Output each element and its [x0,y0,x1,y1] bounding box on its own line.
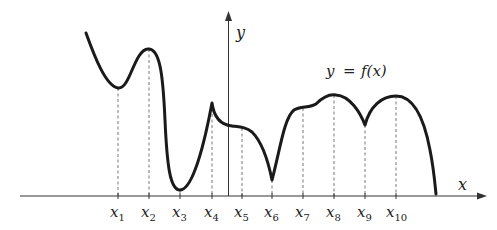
label-x1: x1 [110,203,125,223]
label-x4: x4 [204,203,219,223]
label-x3: x3 [172,203,187,223]
label-x6: x6 [264,203,279,223]
function-label-rhs: f(x) [360,62,387,80]
label-x8: x8 [326,203,341,223]
label-x2: x2 [141,203,156,223]
function-graph: y x y = f(x) x1 x2 x3 x4 [0,0,497,230]
x-axis-arrow-icon [477,193,487,200]
label-x5: x5 [234,203,249,223]
y-axis-arrow-icon [225,11,232,21]
label-x9: x9 [357,203,372,223]
function-label-eq: = [343,62,356,80]
label-x7: x7 [295,203,310,223]
function-label-lhs: y [325,62,335,80]
function-label: y = f(x) [325,62,387,80]
x-point-labels: x1 x2 x3 x4 x5 x6 x7 x8 x9 x10 [110,203,407,223]
function-curve [86,33,436,194]
x-axis-label: x [458,175,467,194]
y-axis-label: y [235,23,246,42]
label-x10: x10 [386,203,407,223]
